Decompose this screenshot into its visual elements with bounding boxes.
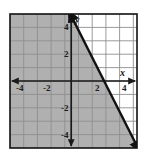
x-tick-label-4: 4 [122,84,127,93]
y-axis-label: y [75,15,79,25]
inequality-graph-figure: -4 -2 2 4 4 2 -2 -4 y x [0,0,146,159]
y-tick-label-4: 4 [64,23,69,32]
y-tick-label-neg4: -4 [61,131,69,140]
x-tick-label-neg2: -2 [43,84,51,93]
y-tick-label-neg2: -2 [61,104,69,113]
y-tick-label-2: 2 [64,50,69,59]
x-tick-label-neg4: -4 [16,84,24,93]
coordinate-plane [0,0,146,159]
x-axis-label: x [120,68,125,78]
x-tick-label-2: 2 [95,84,100,93]
